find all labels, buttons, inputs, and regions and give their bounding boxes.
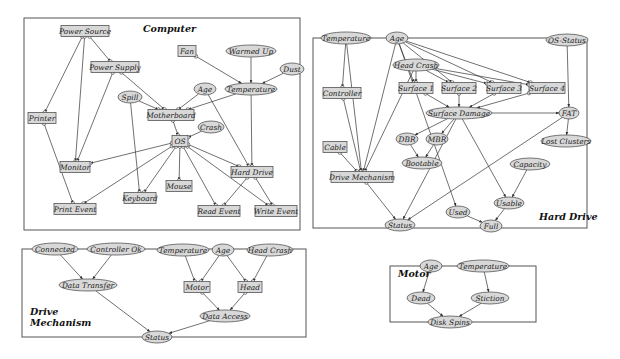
node-h-surface-3[interactable]: Surface 3 [486, 83, 522, 94]
node-d-data-transfer[interactable]: Data Transfer [59, 279, 117, 291]
node-d-connected[interactable]: Connected [32, 243, 78, 255]
node-c-monitor[interactable]: Monitor [59, 162, 91, 173]
node-label: Read Event [196, 207, 240, 216]
edge-c-power-source-to-c-monitor [75, 37, 84, 162]
edge-h-head-crash-to-h-surface-2 [426, 70, 449, 82]
node-d-head[interactable]: Head [238, 282, 262, 293]
node-h-cable[interactable]: Cable [323, 142, 347, 153]
node-c-power-supply[interactable]: Power Supply [88, 62, 141, 73]
node-h-surface-1[interactable]: Surface 1 [398, 83, 434, 94]
edge-h-surface-1-to-h-surface-damage [426, 94, 450, 108]
node-h-age[interactable]: Age [386, 32, 408, 44]
edge-c-crash-to-c-os [188, 131, 202, 137]
node-label: Dust [282, 65, 300, 74]
node-d-age[interactable]: Age [212, 244, 234, 256]
edge-d-age-to-d-head [227, 256, 246, 282]
node-h-drive-mechanism[interactable]: Drive Mechanism [328, 172, 395, 183]
node-h-used[interactable]: Used [446, 206, 470, 218]
node-h-dbr[interactable]: DBR [396, 133, 418, 145]
node-label: Age [389, 34, 405, 43]
node-d-controller-ok[interactable]: Controller Ok [87, 243, 145, 255]
node-h-surface-2[interactable]: Surface 2 [441, 83, 477, 94]
panel-title: Hard Drive [538, 211, 598, 222]
node-m-stiction[interactable]: Stiction [471, 292, 509, 304]
node-h-os-status[interactable]: OS-Status [546, 34, 588, 46]
node-c-mouse[interactable]: Mouse [166, 181, 193, 192]
node-h-capacity[interactable]: Capacity [510, 158, 550, 170]
edge-c-hard-drive-to-c-write-event [255, 178, 272, 206]
node-m-disk-spins[interactable]: Disk Spins [428, 316, 472, 328]
edge-c-power-supply-to-c-monitor [77, 73, 113, 162]
edge-h-drive-mechanism-to-h-status [366, 183, 395, 220]
edge-d-data-transfer-to-d-status [96, 291, 150, 332]
node-h-full[interactable]: Full [480, 220, 502, 232]
node-c-age[interactable]: Age [194, 83, 216, 95]
node-c-motherboard[interactable]: Motherboard [145, 110, 196, 121]
node-label: Lost Clusters [540, 137, 591, 146]
node-c-write-event[interactable]: Write Event [254, 206, 299, 217]
edge-c-spill-to-c-keyboard [131, 103, 140, 193]
node-label: Spill [122, 93, 140, 102]
node-h-status[interactable]: Status [385, 219, 415, 231]
node-h-lost-clusters[interactable]: Lost Clusters [540, 135, 591, 147]
node-label: Dead [410, 294, 431, 303]
edge-d-data-access-to-d-status [169, 321, 210, 334]
node-label: Capacity [514, 160, 548, 169]
edge-d-head-to-d-data-access [230, 293, 245, 311]
node-h-controller[interactable]: Controller [323, 88, 362, 99]
edge-h-mbr-to-h-bootable [426, 145, 434, 157]
node-d-data-access[interactable]: Data Access [200, 310, 250, 322]
node-label: Hard Drive [230, 168, 273, 177]
node-label: Keyboard [121, 194, 158, 203]
node-label: Power Supply [88, 63, 141, 72]
node-label: Cable [324, 143, 346, 152]
node-c-printer[interactable]: Printer [28, 113, 56, 124]
node-c-read-event[interactable]: Read Event [196, 206, 240, 217]
node-m-dead[interactable]: Dead [407, 292, 435, 304]
edge-h-controller-to-h-drive-mechanism [343, 99, 360, 172]
edge-h-cable-to-h-drive-mechanism [340, 153, 357, 172]
node-c-crash[interactable]: Crash [198, 121, 224, 133]
node-c-dust[interactable]: Dust [280, 63, 304, 75]
node-c-os[interactable]: OS [172, 136, 188, 147]
node-label: Controller Ok [90, 245, 142, 254]
edge-h-temperature-to-h-drive-mechanism [347, 44, 362, 172]
node-c-print-event[interactable]: Print Event [53, 204, 97, 215]
node-label: Connected [35, 245, 75, 254]
node-label: Temperature [227, 85, 276, 94]
node-c-keyboard[interactable]: Keyboard [121, 193, 158, 204]
edge-c-os-to-c-hard-drive [188, 144, 239, 166]
node-label: Surface 3 [486, 84, 522, 93]
node-h-bootable[interactable]: Bootable [402, 157, 442, 169]
edge-d-temperature-to-d-motor [185, 256, 195, 282]
node-c-power-source[interactable]: Power Source [58, 26, 112, 37]
node-m-age[interactable]: Age [420, 260, 442, 272]
node-c-spill[interactable]: Spill [118, 91, 142, 103]
node-c-warmed-up[interactable]: Warmed Up [226, 45, 276, 57]
edge-c-dust-to-c-temperature [262, 73, 283, 83]
node-h-surface-damage[interactable]: Surface Damage [426, 107, 492, 119]
node-label: FAT [561, 109, 577, 118]
edge-c-motherboard-to-c-os [173, 121, 178, 136]
edge-d-controller-ok-to-d-data-transfer [93, 255, 112, 279]
node-h-mbr[interactable]: MBR [426, 133, 448, 145]
node-label: Monitor [59, 163, 91, 172]
edge-h-os-status-to-h-fat [567, 46, 569, 107]
node-h-fat[interactable]: FAT [559, 107, 579, 119]
node-c-hard-drive[interactable]: Hard Drive [230, 167, 273, 178]
node-m-temperature[interactable]: Temperature [457, 260, 509, 272]
node-h-surface-4[interactable]: Surface 4 [529, 83, 565, 94]
node-h-usable[interactable]: Usable [494, 197, 524, 209]
node-h-head-crash[interactable]: Head Crash [393, 59, 439, 71]
node-label: OS-Status [548, 36, 586, 45]
node-d-motor[interactable]: Motor [184, 282, 210, 293]
node-c-fan[interactable]: Fan [178, 46, 196, 57]
edge-d-motor-to-d-data-access [202, 293, 219, 311]
node-h-temperature[interactable]: Temperature [321, 32, 371, 44]
edge-m-stiction-to-m-disk-spins [459, 303, 481, 316]
node-d-status[interactable]: Status [142, 331, 172, 343]
node-c-temperature[interactable]: Temperature [225, 83, 277, 95]
node-d-temperature[interactable]: Temperature [157, 244, 209, 256]
panel-border [313, 38, 587, 228]
node-d-head-crash[interactable]: Head Crash [247, 244, 293, 256]
